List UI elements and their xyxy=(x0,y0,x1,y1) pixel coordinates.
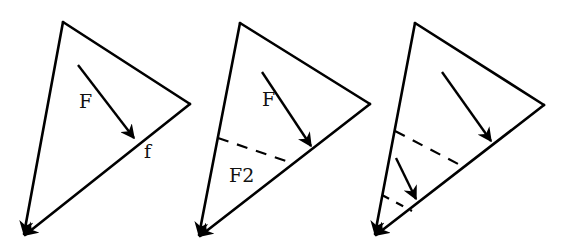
triangle-edge-left-arrow xyxy=(24,22,63,234)
force-label: F xyxy=(262,88,275,110)
dashed-division-line-2 xyxy=(382,195,412,211)
edge-label: f xyxy=(144,140,153,162)
triangle-1 xyxy=(24,22,190,235)
dashed-division-line xyxy=(218,138,292,163)
dashed-division-line-1 xyxy=(395,131,462,166)
panel-3 xyxy=(375,23,544,235)
triangle-edge-left-arrow xyxy=(199,23,240,235)
subregion-label: F2 xyxy=(229,164,254,186)
force-label: F xyxy=(79,90,92,112)
force-arrow-icon xyxy=(442,72,491,141)
secondary-force-arrow-icon xyxy=(396,158,416,199)
triangle-2 xyxy=(199,23,370,236)
triangle-edge-top xyxy=(415,23,544,105)
triangle-edge-bottom-arrow xyxy=(200,104,370,236)
triangle-edge-left-arrow xyxy=(375,23,415,234)
triangle-edge-bottom-arrow xyxy=(25,104,190,235)
panel-1: F f xyxy=(24,22,190,235)
triangle-3 xyxy=(375,23,544,235)
triangle-edge-top xyxy=(240,23,370,104)
force-decomposition-diagram: F f F F2 xyxy=(0,0,567,252)
panel-2: F F2 xyxy=(199,23,370,236)
